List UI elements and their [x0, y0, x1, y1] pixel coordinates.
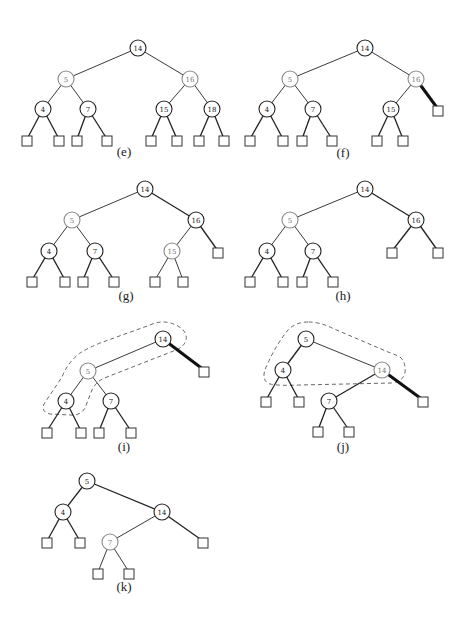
node-key: 7 — [311, 248, 315, 256]
node-key: 5 — [304, 336, 308, 344]
nil-leaf — [42, 538, 52, 548]
tree-node-7: 7 — [305, 243, 321, 259]
tree-edge — [110, 512, 162, 542]
nil-leaf — [126, 428, 136, 438]
nil-leaf — [93, 569, 103, 579]
node-key: 14 — [134, 45, 143, 53]
tree-node-14: 14 — [374, 362, 390, 378]
node-key: 7 — [311, 106, 315, 114]
node-key: 15 — [387, 106, 396, 114]
tree-node-5: 5 — [282, 212, 298, 228]
node-key: 14 — [159, 336, 168, 344]
tree-node-14: 14 — [154, 504, 170, 520]
tree-node-7: 7 — [87, 243, 103, 259]
tree-node-5: 5 — [80, 363, 96, 379]
tree-edge — [365, 189, 416, 220]
node-key: 16 — [412, 76, 421, 84]
panel-label: (k) — [116, 579, 131, 594]
node-key: 7 — [86, 106, 90, 114]
tree-edge — [290, 189, 365, 220]
nil-leaf — [344, 427, 354, 437]
tree-node-16: 16 — [182, 71, 198, 87]
nil-leaf — [418, 397, 428, 407]
tree-node-15: 15 — [383, 101, 399, 117]
tree-node-16: 16 — [188, 212, 204, 228]
panel-e: 14516471518(e) — [22, 40, 229, 159]
nil-leaf — [327, 136, 337, 146]
tree-edge — [66, 48, 138, 79]
nil-leaf — [172, 136, 182, 146]
tree-node-4: 4 — [58, 393, 74, 409]
tree-node-4: 4 — [35, 101, 51, 117]
node-key: 16 — [412, 217, 421, 225]
nil-leaf — [198, 538, 208, 548]
nil-leaf — [245, 136, 255, 146]
tree-node-14: 14 — [130, 40, 146, 56]
nil-leaf — [278, 277, 288, 287]
node-key: 16 — [192, 217, 201, 225]
tree-edge — [306, 339, 382, 370]
nil-leaf — [124, 569, 134, 579]
tree-edge — [138, 48, 190, 79]
nil-leaf — [109, 277, 119, 287]
nil-leaf — [75, 538, 85, 548]
nil-leaf — [297, 277, 307, 287]
nil-leaf — [54, 136, 64, 146]
nil-leaf — [398, 136, 408, 146]
nil-leaf — [22, 136, 32, 146]
tree-node-4: 4 — [55, 504, 71, 520]
nil-leaf — [297, 136, 307, 146]
tree-diagram-canvas: 14516471518(e)145164715(f)145164715(g)14… — [0, 0, 470, 620]
nil-leaf — [146, 136, 156, 146]
node-key: 14 — [158, 509, 167, 517]
nil-leaf — [94, 428, 104, 438]
node-key: 5 — [288, 76, 292, 84]
tree-node-18: 18 — [204, 101, 220, 117]
tree-node-7: 7 — [80, 101, 96, 117]
node-key: 4 — [281, 367, 286, 375]
tree-node-14: 14 — [357, 40, 373, 56]
tree-node-7: 7 — [102, 534, 118, 550]
nil-leaf — [294, 397, 304, 407]
node-key: 4 — [64, 398, 69, 406]
nil-leaf — [245, 277, 255, 287]
panel-label: (f) — [337, 145, 350, 160]
node-key: 18 — [208, 106, 217, 114]
tree-node-5: 5 — [298, 331, 314, 347]
panel-label: (g) — [118, 288, 133, 303]
tree-edge — [145, 189, 196, 220]
nil-leaf — [72, 136, 82, 146]
panel-j: 54147(j) — [261, 322, 428, 454]
node-key: 5 — [86, 368, 90, 376]
node-key: 5 — [85, 478, 89, 486]
node-key: 7 — [108, 539, 112, 547]
tree-node-4: 4 — [41, 243, 57, 259]
nil-leaf — [328, 277, 338, 287]
node-key: 4 — [61, 509, 66, 517]
nil-leaf — [199, 367, 209, 377]
tree-node-14: 14 — [137, 181, 153, 197]
nil-leaf — [278, 136, 288, 146]
panel-f: 145164715(f) — [245, 40, 443, 160]
node-key: 14 — [378, 367, 387, 375]
nil-leaf — [372, 136, 382, 146]
node-key: 16 — [186, 76, 195, 84]
node-key: 7 — [93, 248, 97, 256]
tree-node-15: 15 — [156, 101, 172, 117]
tree-edge — [87, 481, 162, 512]
node-key: 5 — [64, 76, 68, 84]
nil-leaf — [433, 106, 443, 116]
panel-i: 14547(i) — [42, 322, 209, 454]
nil-leaf — [27, 277, 37, 287]
nil-leaf — [433, 248, 443, 258]
tree-node-14: 14 — [155, 331, 171, 347]
panel-h: 1451647(h) — [245, 181, 443, 303]
nil-leaf — [76, 428, 86, 438]
nil-leaf — [387, 248, 397, 258]
node-key: 4 — [265, 106, 270, 114]
tree-edge — [290, 48, 365, 79]
nil-leaf — [150, 277, 160, 287]
node-key: 14 — [141, 186, 150, 194]
tree-node-7: 7 — [305, 101, 321, 117]
tree-node-5: 5 — [58, 71, 74, 87]
